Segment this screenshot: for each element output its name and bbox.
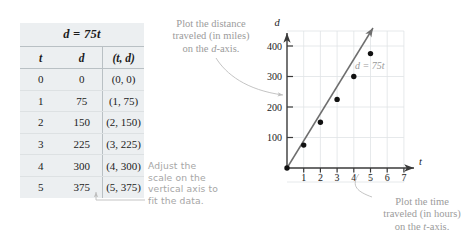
x-tick-label: 7 xyxy=(401,172,406,183)
data-point xyxy=(351,74,356,79)
data-point xyxy=(368,51,373,56)
y-tick-label: 400 xyxy=(267,41,282,52)
y-axis-name: d xyxy=(274,17,280,28)
x-tick-label: 6 xyxy=(385,172,390,183)
trend-line-d-equals-75t xyxy=(287,28,373,168)
y-tick-label: 200 xyxy=(267,102,282,113)
y-tick-label: 100 xyxy=(267,132,282,143)
data-point xyxy=(301,142,306,147)
data-point xyxy=(334,97,339,102)
data-point xyxy=(284,165,289,170)
x-axis-name: t xyxy=(419,156,423,167)
leader-line-adjust-scale xyxy=(96,192,145,200)
y-tick-label: 300 xyxy=(267,71,282,82)
equation-label: d = 75t xyxy=(355,60,385,71)
x-tick-label: 2 xyxy=(318,172,323,183)
x-tick-label: 3 xyxy=(335,172,340,183)
x-tick-label: 1 xyxy=(301,172,306,183)
grid-lines xyxy=(287,31,404,182)
figure-root: d = 75t t d (t, d) 0 0 (0, 0) 1 75 (1, 7… xyxy=(0,0,476,238)
data-point xyxy=(318,120,323,125)
graph-and-leaders: 100 200 300 400 1 2 3 4 5 6 7 d t d = 75… xyxy=(0,0,476,238)
y-axis-ticks xyxy=(287,46,293,138)
x-tick-label: 5 xyxy=(368,172,373,183)
